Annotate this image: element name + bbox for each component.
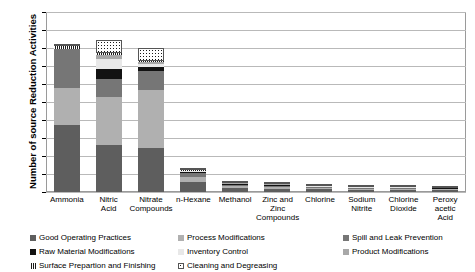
bar-segment[interactable] xyxy=(180,182,206,192)
bar-segment[interactable] xyxy=(96,145,122,192)
x-axis-label: NitrateCompounds xyxy=(129,195,172,222)
stacked-bar[interactable] xyxy=(432,186,458,192)
legend-label: Product Modifications xyxy=(352,247,428,257)
legend-item[interactable]: Surface Prepartion and Finishing xyxy=(30,261,178,271)
bar-segment[interactable] xyxy=(54,88,80,126)
x-axis-label: Zinc andZinc Compounds xyxy=(256,195,299,222)
legend-item[interactable]: Spill and Leak Prevention xyxy=(343,233,475,243)
legend-row: Raw Material ModificationsInventory Cont… xyxy=(30,247,475,257)
stacked-bar[interactable] xyxy=(222,181,248,192)
x-axis-label: PeroxyaceticAcid xyxy=(424,195,466,222)
x-axis-label: Methanol xyxy=(214,195,256,222)
x-axis-label: ChlorineDioxide xyxy=(383,195,425,222)
bar-segment[interactable] xyxy=(348,190,374,192)
legend-row: Good Operating PracticesProcess Modifica… xyxy=(30,233,475,243)
x-axis-label: SodiumNitrite xyxy=(341,195,383,222)
bar-segment[interactable] xyxy=(138,90,164,148)
bar-segment[interactable] xyxy=(96,40,122,54)
legend-swatch-icon xyxy=(343,235,349,241)
y-axis-title: Number of source Reduction Activities xyxy=(27,7,38,197)
legend-item[interactable]: Cleaning and Degreasing xyxy=(178,261,343,271)
bar-slot xyxy=(46,12,88,192)
legend-item[interactable]: Process Modifications xyxy=(178,233,343,243)
legend-item[interactable]: Raw Material Modifications xyxy=(30,247,178,257)
x-axis-label: Ammonia xyxy=(46,195,88,222)
bar-segment[interactable] xyxy=(138,71,164,91)
stacked-bar[interactable] xyxy=(96,40,122,192)
stacked-bar[interactable] xyxy=(348,185,374,192)
legend-swatch-icon xyxy=(30,263,36,269)
bar-segment[interactable] xyxy=(222,188,248,192)
stacked-bar[interactable] xyxy=(180,168,206,192)
chart-legend: Good Operating PracticesProcess Modifica… xyxy=(30,233,475,272)
legend-item[interactable]: Good Operating Practices xyxy=(30,233,178,243)
legend-label: Raw Material Modifications xyxy=(39,247,135,257)
bar-slot xyxy=(382,12,424,192)
bar-segment[interactable] xyxy=(96,59,122,69)
y-axis-tick xyxy=(42,192,46,193)
stacked-bar[interactable] xyxy=(390,185,416,192)
bar-slot xyxy=(424,12,466,192)
stacked-bar[interactable] xyxy=(54,44,80,192)
bar-slot xyxy=(340,12,382,192)
legend-label: Good Operating Practices xyxy=(39,233,131,243)
bar-segment[interactable] xyxy=(96,69,122,79)
stacked-bar[interactable] xyxy=(138,48,164,192)
bar-segment[interactable] xyxy=(306,189,332,192)
bar-slot xyxy=(256,12,298,192)
x-axis-labels: AmmoniaNitricAcidNitrateCompoundsn-Hexan… xyxy=(46,195,466,222)
x-axis-label: NitricAcid xyxy=(88,195,130,222)
plot-area: 01002003004005006007008009001,000 xyxy=(46,12,466,192)
bar-slot xyxy=(298,12,340,192)
legend-swatch-icon xyxy=(30,235,36,241)
legend-item[interactable]: Inventory Control xyxy=(178,247,343,257)
bar-segment[interactable] xyxy=(54,49,80,88)
x-axis-label: n-Hexane xyxy=(173,195,215,222)
legend-swatch-icon xyxy=(178,249,184,255)
bar-slot xyxy=(130,12,172,192)
gridline xyxy=(46,192,466,193)
chart-container: Number of source Reduction Activities 01… xyxy=(0,0,475,272)
legend-swatch-icon xyxy=(178,235,184,241)
bar-segment[interactable] xyxy=(96,79,122,97)
legend-swatch-icon xyxy=(343,249,349,255)
legend-row: Surface Prepartion and FinishingCleaning… xyxy=(30,261,475,271)
legend-label: Cleaning and Degreasing xyxy=(187,261,277,271)
legend-swatch-icon xyxy=(178,263,184,269)
bar-segment[interactable] xyxy=(54,125,80,192)
legend-label: Process Modifications xyxy=(187,233,265,243)
bar-slot xyxy=(88,12,130,192)
legend-item[interactable]: Product Modifications xyxy=(343,247,475,257)
legend-label: Surface Prepartion and Finishing xyxy=(39,261,156,271)
stacked-bar[interactable] xyxy=(264,182,290,192)
legend-label: Inventory Control xyxy=(187,247,248,257)
bar-segment[interactable] xyxy=(96,97,122,146)
bar-segment[interactable] xyxy=(138,48,164,61)
bar-series-layer xyxy=(46,12,466,192)
bar-segment[interactable] xyxy=(138,148,164,192)
bar-slot xyxy=(172,12,214,192)
bar-segment[interactable] xyxy=(264,189,290,192)
legend-label: Spill and Leak Prevention xyxy=(352,233,443,243)
bar-slot xyxy=(214,12,256,192)
x-axis-label: Chlorine xyxy=(299,195,341,222)
bar-segment[interactable] xyxy=(390,190,416,192)
stacked-bar[interactable] xyxy=(306,184,332,192)
bar-segment[interactable] xyxy=(432,190,458,192)
legend-swatch-icon xyxy=(30,249,36,255)
